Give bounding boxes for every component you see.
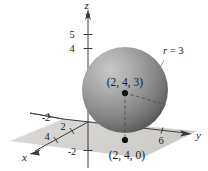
center-point-marker <box>122 90 128 96</box>
z-tick-label-neg2: -2 <box>68 146 77 157</box>
center-point-label: (2, 4, 3) <box>107 76 144 89</box>
z-axis-label: z <box>84 0 90 11</box>
x-axis-label: x <box>21 151 27 163</box>
x-axis-arrow <box>29 149 41 156</box>
radius-value: 3 <box>178 45 183 56</box>
radius-annotation-label: r = 3 <box>163 45 184 56</box>
base-point-marker <box>122 137 128 143</box>
sphere-figure: z 5 4 -2 -2 6 y 2 4 <box>0 0 208 171</box>
sphere-diagram-canvas: z 5 4 -2 -2 6 y 2 4 <box>0 0 208 171</box>
back-edge-tick-label-neg2: -2 <box>42 112 51 123</box>
radius-equals: = <box>167 45 178 56</box>
y-tick-label-6: 6 <box>158 135 163 146</box>
x-tick-label-2: 2 <box>60 121 65 132</box>
y-axis-label: y <box>195 129 201 141</box>
z-tick-label-5: 5 <box>69 29 74 40</box>
base-point-label: (2, 4, 0) <box>109 149 146 162</box>
z-tick-label-4: 4 <box>69 43 75 54</box>
x-tick-label-4: 4 <box>44 131 50 142</box>
